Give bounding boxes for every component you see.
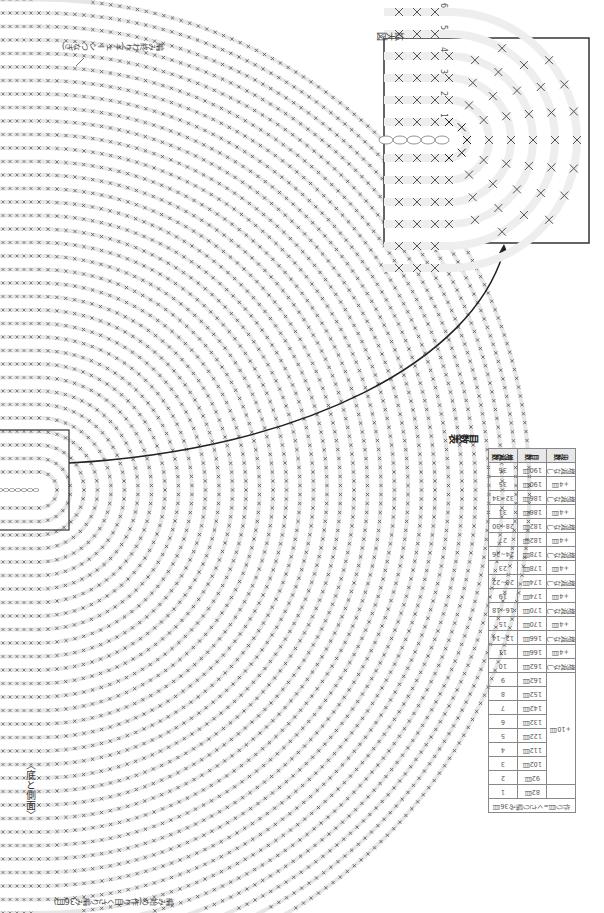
table-cell-round: 27	[489, 533, 518, 547]
table-cell-count: 92目	[518, 771, 547, 785]
table-cell-round: 6	[489, 715, 518, 729]
table-cell-round: 1	[489, 785, 518, 799]
table-cell-change: +4目	[547, 589, 576, 603]
table-cell-round: 8	[489, 687, 518, 701]
table-cell-count: 170目	[518, 603, 547, 617]
table-cell-round: 23	[489, 561, 518, 575]
table-cell-round: 36	[489, 463, 518, 477]
table-header-cell: 増減数	[489, 449, 518, 463]
table-cell-round: 31	[489, 505, 518, 519]
table-cell-change: 増減なし	[547, 519, 576, 533]
table-cell-count: 174目	[518, 589, 547, 603]
table-cell-change: +4目	[547, 645, 576, 659]
stitch-count-table: 段数増減なし+4目増減なし+4目増減なし+4目増減なし+4目増減なし+4目増減な…	[488, 448, 576, 813]
table-cell-change: +10目	[547, 673, 576, 785]
svg-text:4: 4	[439, 47, 448, 52]
table-cell-change: 増減なし	[547, 659, 576, 673]
magnified-label: 拡大図	[377, 30, 404, 43]
table-cell-round: 15	[489, 617, 518, 631]
table-cell-count: 162目	[518, 659, 547, 673]
table-cell-count: 186目	[518, 491, 547, 505]
svg-text:3: 3	[439, 69, 448, 74]
table-cell-count: 152目	[518, 687, 547, 701]
svg-text:2: 2	[439, 91, 448, 96]
table-cell-count: 178目	[518, 561, 547, 575]
table-cell-change: +4目	[547, 477, 576, 491]
table-cell-round: 28~30	[489, 519, 518, 533]
table-cell-change: 増減なし	[547, 463, 576, 477]
table-cell-count: 142目	[518, 701, 547, 715]
table-cell-count: 182目	[518, 533, 547, 547]
table-cell-count: 102目	[518, 757, 547, 771]
table-cell-round: 20~22	[489, 575, 518, 589]
figure-title: 〈底と側面〉	[22, 760, 37, 820]
table-cell-round: 9	[489, 673, 518, 687]
table-cell-count: 166目	[518, 645, 547, 659]
svg-text:6: 6	[439, 3, 448, 8]
table-cell-change: 増減なし	[547, 491, 576, 505]
crochet-chart-figure: 123456 拡大図 編み終わり(チェーンつなぎ) 編み始め(作り目くさり編み3…	[0, 0, 604, 913]
table-cell-count: 82目	[518, 785, 547, 799]
table-cell-count: 190目	[518, 477, 547, 491]
stitch-table-title: 目数表	[449, 430, 479, 445]
table-cell-change: 増減なし	[547, 603, 576, 617]
table-cell-change: +4目	[547, 533, 576, 547]
table-cell-round: 19	[489, 589, 518, 603]
svg-text:5: 5	[439, 25, 448, 30]
table-cell-count: 122目	[518, 729, 547, 743]
table-cell-count: 178目	[518, 547, 547, 561]
table-cell-round: 24~26	[489, 547, 518, 561]
table-cell-round: 3	[489, 757, 518, 771]
table-cell-change: +4目	[547, 505, 576, 519]
table-cell-round: 5	[489, 729, 518, 743]
table-cell-change: +4目	[547, 617, 576, 631]
table-cell-count: 162目	[518, 673, 547, 687]
table-cell-count: 186目	[518, 505, 547, 519]
table-cell-count: 182目	[518, 519, 547, 533]
table-cell-change: +4目	[547, 561, 576, 575]
table-cell-count: 170目	[518, 617, 547, 631]
table-cell-count: 190目	[518, 463, 547, 477]
table-cell-change: 増減なし	[547, 547, 576, 561]
table-cell-round: 4	[489, 743, 518, 757]
table-cell-round: 32~34	[489, 491, 518, 505]
table-cell-count: 132目	[518, 715, 547, 729]
table-cell-round: 35	[489, 477, 518, 491]
table-footer-cell: 作り目=くさり編み36目	[489, 799, 576, 813]
table-cell-round: 12~14	[489, 631, 518, 645]
svg-text:1: 1	[439, 113, 448, 118]
table-header-cell: 段数	[547, 449, 576, 463]
table-cell-round: 11	[489, 645, 518, 659]
start-note: 編み始め(作り目くさり編み36目)	[54, 895, 174, 906]
table-cell-round: 2	[489, 771, 518, 785]
table-cell-change	[547, 785, 576, 799]
end-note: 編み終わり(チェーンつなぎ)	[62, 40, 164, 51]
table-cell-count: 112目	[518, 743, 547, 757]
table-cell-round: 10	[489, 659, 518, 673]
table-cell-change: 増減なし	[547, 575, 576, 589]
table-cell-change: 増減なし	[547, 631, 576, 645]
table-header-cell: 目数	[518, 449, 547, 463]
table-cell-round: 16~18	[489, 603, 518, 617]
table-cell-count: 174目	[518, 575, 547, 589]
table-cell-round: 7	[489, 701, 518, 715]
table-cell-count: 166目	[518, 631, 547, 645]
